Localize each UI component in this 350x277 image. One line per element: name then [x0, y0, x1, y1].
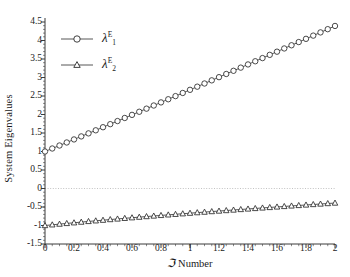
data-point-marker-circle — [224, 71, 229, 76]
x-axis-label-suffix: Number — [175, 258, 212, 269]
data-point-marker-circle — [129, 112, 134, 117]
data-point-marker-circle — [144, 106, 149, 111]
data-point-marker-circle — [303, 36, 308, 41]
data-point-marker-circle — [57, 143, 62, 148]
legend-item-lambda2: λE2 — [60, 52, 150, 78]
data-point-marker-circle — [158, 100, 163, 105]
data-point-marker-circle — [108, 121, 113, 126]
data-point-marker-circle — [296, 39, 301, 44]
data-point-marker-circle — [325, 26, 330, 31]
data-point-marker-circle — [115, 118, 120, 123]
data-point-marker-circle — [253, 59, 258, 64]
data-point-marker-circle — [216, 74, 221, 79]
data-point-marker-circle — [86, 131, 91, 136]
data-point-marker-circle — [166, 97, 171, 102]
x-tick-label: 0.2 — [68, 244, 80, 254]
legend-item-lambda1: λE1 — [60, 26, 150, 52]
data-point-marker-circle — [100, 125, 105, 130]
data-point-marker-circle — [267, 52, 272, 57]
data-point-marker-circle — [79, 134, 84, 139]
data-point-marker-circle — [187, 87, 192, 92]
data-point-marker-circle — [274, 49, 279, 54]
data-point-marker-circle — [332, 23, 337, 28]
x-axis-label: ℑ Number — [45, 256, 335, 270]
data-point-marker-circle — [202, 81, 207, 86]
data-point-marker-circle — [260, 55, 265, 60]
x-tick-label: 1.4 — [242, 244, 254, 254]
x-tick-label: 1.6 — [271, 244, 283, 254]
data-point-marker-circle — [50, 146, 55, 151]
data-point-marker-circle — [122, 115, 127, 120]
x-tick-label: 0.8 — [155, 244, 167, 254]
data-point-marker-circle — [93, 128, 98, 133]
legend-sample-circle-icon — [60, 32, 94, 46]
data-point-marker-circle — [173, 93, 178, 98]
legend: λE1 λE2 — [60, 26, 150, 78]
x-tick-label: 1 — [188, 244, 193, 254]
data-point-marker-circle — [151, 103, 156, 108]
data-point-marker-circle — [318, 30, 323, 35]
x-tick-label: 1.2 — [213, 244, 225, 254]
data-point-marker-circle — [137, 109, 142, 114]
x-tick-label: 0.4 — [97, 244, 109, 254]
chart-figure: System Eigenvalues -1.5-1-0.500.511.522.… — [0, 0, 350, 277]
x-tick-label: 2 — [333, 244, 338, 254]
data-point-marker-circle — [209, 78, 214, 83]
data-point-marker-circle — [238, 65, 243, 70]
legend-label-lambda2: λE2 — [102, 56, 116, 73]
data-point-marker-circle — [71, 137, 76, 142]
legend-subscript-1: 1 — [112, 39, 116, 48]
plot-area — [0, 0, 350, 277]
x-tick-label: 0.6 — [126, 244, 138, 254]
legend-subscript-2: 2 — [112, 65, 116, 74]
data-point-marker-circle — [64, 140, 69, 145]
data-point-marker-circle — [231, 68, 236, 73]
data-point-marker-circle — [42, 149, 47, 154]
data-point-marker-triangle — [332, 200, 338, 205]
data-point-marker-circle — [195, 84, 200, 89]
data-point-marker-circle — [245, 62, 250, 67]
legend-sample-triangle-icon — [60, 58, 94, 72]
data-point-marker-circle — [289, 43, 294, 48]
data-point-marker-circle — [282, 46, 287, 51]
data-point-marker-circle — [180, 90, 185, 95]
x-tick-label: 1.8 — [300, 244, 312, 254]
legend-label-lambda1: λE1 — [102, 30, 116, 47]
x-tick-label: 0 — [43, 244, 48, 254]
data-point-marker-circle — [311, 33, 316, 38]
